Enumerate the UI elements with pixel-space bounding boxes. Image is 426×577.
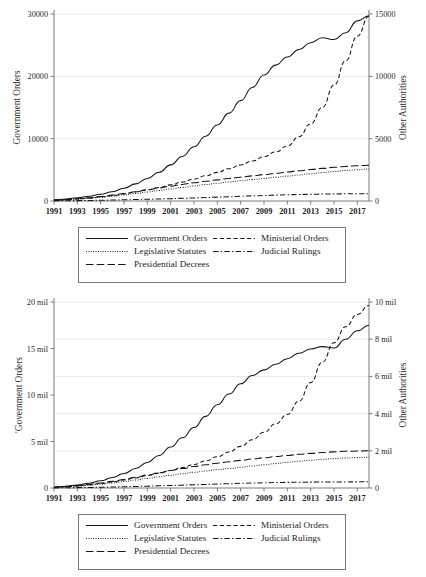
x-tick-label: 1999	[139, 207, 156, 216]
x-tick-label: 2015	[326, 207, 343, 216]
legend-label-legislative-statutes: Legislative Statutes	[134, 533, 206, 544]
legend-item-presidential-decrees: Presidential Decrees	[85, 546, 212, 557]
legend-label-judicial-rulings: Judicial Rulings	[261, 246, 320, 257]
x-tick-label: 2009	[256, 494, 273, 503]
x-tick-label: 2007	[232, 207, 249, 216]
series-line-legislative-statutes	[54, 169, 369, 200]
x-tick-label: 2017	[349, 207, 366, 216]
x-tick-label: 2015	[326, 494, 343, 503]
series-line-government-orders	[54, 325, 369, 487]
legend-swatch-presidential-decrees	[85, 260, 129, 269]
legend-bottom: Government Orders Ministerial Orders Leg…	[78, 514, 346, 570]
left-tick-label: 30000	[28, 10, 48, 19]
chart-panel-bottom: 05 mil10 mil15 mil20 mil02 mil4 mil6 mil…	[0, 290, 426, 577]
chart-panel-top: 0100002000030000050001000015000199119931…	[0, 0, 426, 290]
x-tick-label: 2005	[209, 207, 226, 216]
left-axis-title: 'Government Orders	[14, 357, 24, 433]
left-tick-label: 15 mil	[27, 345, 49, 354]
left-tick-label: 0	[44, 197, 48, 206]
x-tick-label: 1997	[116, 494, 133, 503]
legend-swatch-ministerial-orders	[212, 234, 256, 243]
right-tick-label: 0	[375, 484, 379, 493]
right-axis-title: Other Authorities	[398, 362, 408, 427]
figure-page: 0100002000030000050001000015000199119931…	[0, 0, 426, 577]
x-tick-label: 2013	[302, 494, 319, 503]
legend-item-legislative-statutes: Legislative Statutes	[85, 533, 212, 544]
left-tick-label: 0	[44, 484, 48, 493]
legend-label-judicial-rulings: Judicial Rulings	[261, 533, 320, 544]
x-tick-label: 2001	[162, 207, 179, 216]
x-tick-label: 1997	[116, 207, 133, 216]
x-tick-label: 2013	[302, 207, 319, 216]
left-axis-title: Government Orders	[12, 70, 22, 144]
left-tick-label: 20000	[28, 72, 48, 81]
x-tick-label: 2003	[186, 494, 203, 503]
legend-item-government-orders: Government Orders	[85, 233, 212, 244]
right-tick-label: 10000	[375, 72, 395, 81]
chart-plot-bottom: 05 mil10 mil15 mil20 mil02 mil4 mil6 mil…	[0, 290, 426, 510]
legend-label-ministerial-orders: Ministerial Orders	[261, 233, 329, 244]
legend-label-ministerial-orders: Ministerial Orders	[261, 520, 329, 531]
series-line-ministerial-orders	[54, 306, 369, 488]
x-tick-label: 2011	[279, 494, 295, 503]
right-tick-label: 8 mil	[375, 335, 393, 344]
x-tick-label: 2003	[186, 207, 203, 216]
legend-label-legislative-statutes: Legislative Statutes	[134, 246, 206, 257]
legend-label-government-orders: Government Orders	[134, 233, 207, 244]
legend-swatch-presidential-decrees	[85, 547, 129, 556]
legend-item-government-orders: Government Orders	[85, 520, 212, 531]
legend-item-judicial-rulings: Judicial Rulings	[212, 533, 339, 544]
x-tick-label: 2001	[162, 494, 179, 503]
legend-item-legislative-statutes: Legislative Statutes	[85, 246, 212, 257]
legend-swatch-judicial-rulings	[212, 534, 256, 543]
left-tick-label: 5 mil	[31, 438, 49, 447]
x-tick-label: 1991	[46, 494, 63, 503]
legend-label-government-orders: Government Orders	[134, 520, 207, 531]
legend-grid: Government Orders Ministerial Orders Leg…	[79, 515, 345, 562]
right-tick-label: 10 mil	[375, 298, 397, 307]
x-tick-label: 2007	[232, 494, 249, 503]
x-tick-label: 1995	[92, 494, 109, 503]
right-tick-label: 2 mil	[375, 447, 393, 456]
left-tick-label: 20 mil	[27, 298, 49, 307]
legend-label-presidential-decrees: Presidential Decrees	[134, 259, 209, 270]
legend-swatch-judicial-rulings	[212, 247, 256, 256]
x-tick-label: 2005	[209, 494, 226, 503]
x-tick-label: 2009	[256, 207, 273, 216]
series-line-ministerial-orders	[54, 16, 369, 200]
x-tick-label: 1991	[46, 207, 63, 216]
legend-swatch-government-orders	[85, 521, 129, 530]
legend-item-presidential-decrees: Presidential Decrees	[85, 259, 212, 270]
x-tick-label: 2017	[349, 494, 366, 503]
x-tick-label: 1995	[92, 207, 109, 216]
series-line-presidential-decrees	[54, 165, 369, 200]
legend-grid: Government Orders Ministerial Orders Leg…	[79, 228, 345, 275]
x-tick-label: 1999	[139, 494, 156, 503]
x-tick-label: 1993	[69, 494, 86, 503]
legend-item-judicial-rulings: Judicial Rulings	[212, 246, 339, 257]
legend-item-ministerial-orders: Ministerial Orders	[212, 520, 339, 531]
legend-swatch-ministerial-orders	[212, 521, 256, 530]
x-tick-label: 2011	[279, 207, 295, 216]
right-tick-label: 5000	[375, 135, 391, 144]
left-tick-label: 10000	[28, 135, 48, 144]
right-tick-label: 0	[375, 197, 379, 206]
chart-plot-top: 0100002000030000050001000015000199119931…	[0, 0, 426, 222]
legend-item-ministerial-orders: Ministerial Orders	[212, 233, 339, 244]
right-tick-label: 15000	[375, 10, 395, 19]
series-line-government-orders	[54, 16, 369, 200]
right-axis-title: Other Authorities	[398, 75, 408, 140]
right-tick-label: 6 mil	[375, 372, 393, 381]
left-tick-label: 10 mil	[27, 391, 49, 400]
legend-swatch-government-orders	[85, 234, 129, 243]
legend-swatch-legislative-statutes	[85, 534, 129, 543]
legend-top: Government Orders Ministerial Orders Leg…	[78, 227, 346, 283]
legend-swatch-legislative-statutes	[85, 247, 129, 256]
legend-label-presidential-decrees: Presidential Decrees	[134, 546, 209, 557]
right-tick-label: 4 mil	[375, 410, 393, 419]
x-tick-label: 1993	[69, 207, 86, 216]
